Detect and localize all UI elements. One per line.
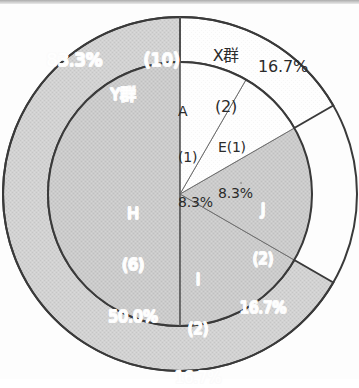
outer-label-ygun: 83.3% Y群 (10) — [48, 15, 178, 172]
inner-label-i-percent: 16.7% — [160, 370, 236, 386]
outer-label-ygun-name: Y群 — [103, 86, 142, 103]
outer-label-ygun-count: (10) — [144, 50, 180, 69]
inner-label-h: H (6) 50.0% — [92, 170, 174, 360]
inner-label-h-name: H — [92, 205, 174, 222]
inner-label-e-name: E(1) — [218, 140, 290, 155]
inner-label-j-name: J — [222, 202, 304, 218]
outer-label-ygun-percent: 83.3% — [46, 50, 102, 69]
inner-label-h-percent: 50.0% — [92, 308, 174, 325]
outer-label-xgun-percent: 16.7% — [238, 58, 328, 75]
inner-label-h-count: (6) — [92, 256, 174, 273]
